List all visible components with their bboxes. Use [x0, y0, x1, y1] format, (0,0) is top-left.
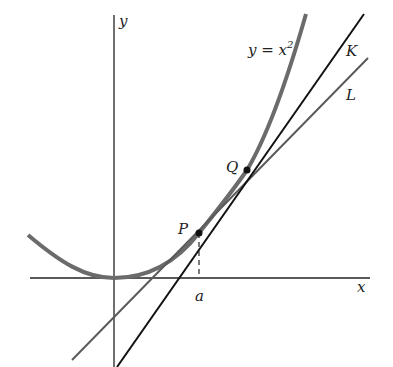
point-p-marker	[196, 230, 203, 237]
curve-equation-label: y = x2	[247, 39, 293, 59]
tick-a-label: a	[195, 287, 204, 305]
point-q-marker	[244, 167, 251, 174]
curve-equation-exponent: 2	[286, 39, 293, 50]
tangent-secant-diagram: y x y = x2 K L Q P a	[0, 0, 393, 367]
tangent-line-l	[72, 58, 368, 360]
line-k-label: K	[345, 42, 358, 60]
point-p-label: P	[177, 220, 189, 238]
curve-equation-base: y = x	[247, 41, 288, 59]
line-l-label: L	[345, 86, 356, 104]
x-axis-label: x	[357, 278, 366, 296]
point-q-label: Q	[226, 158, 238, 176]
y-axis-label: y	[118, 12, 128, 30]
secant-line-k	[117, 14, 364, 367]
